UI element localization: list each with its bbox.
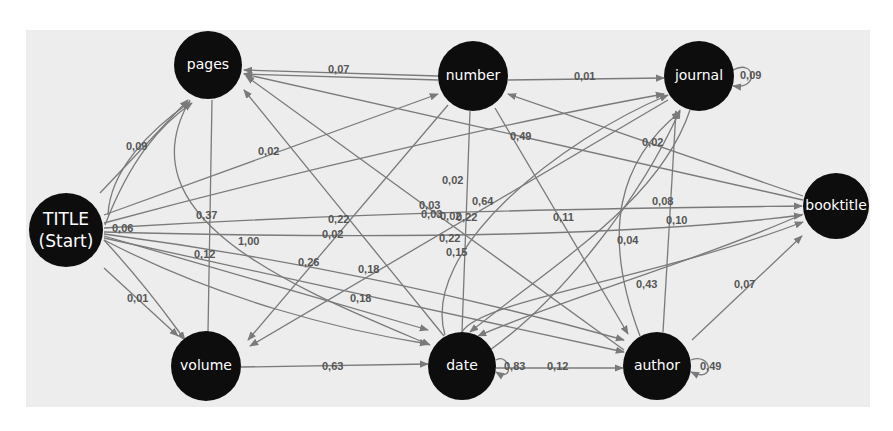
node-booktitle: booktitle (803, 173, 869, 239)
node-sublabel: (Start) (39, 231, 94, 251)
edge-weight-label: 0,06 (112, 222, 133, 234)
edge-weight-label: 0,10 (666, 214, 687, 226)
edge-weight-label: 0,02 (642, 136, 663, 148)
node-volume: volume (171, 331, 241, 401)
edge-weight-label: 0,11 (553, 211, 574, 223)
edge-weight-label: 0,09 (126, 140, 147, 152)
edge-weight-label: 0,63 (322, 360, 343, 372)
edge-weight-label: 0,15 (446, 246, 467, 258)
edge-journal-volume (250, 100, 668, 346)
edge-weight-label: 0,64 (472, 195, 494, 207)
edge-weight-label: 0,07 (328, 63, 349, 75)
node-number: number (438, 41, 508, 111)
edge-title-date (104, 236, 428, 330)
edge-weight-label: 0,01 (127, 292, 148, 304)
edge-weight-label: 0,43 (636, 278, 657, 290)
edge-weight-label: 0,04 (617, 234, 639, 246)
edge-weight-label: 0,01 (574, 70, 595, 82)
edge-weight-label: 0,49 (700, 360, 721, 372)
node-date: date (428, 332, 496, 400)
node-label: pages (187, 56, 229, 72)
node-pages: pages (174, 31, 242, 99)
transition-graph: 0,090,020,070,010,090,490,020,020,640,08… (0, 0, 893, 431)
edge-weight-label: 0,37 (196, 209, 217, 221)
node-author: author (623, 332, 691, 400)
edge-weight-label: 0,02 (442, 174, 463, 186)
edge-weight-label: 0,22 (439, 232, 460, 244)
edge-title-volume-2 (104, 240, 185, 340)
edge-weight-label: 0,49 (510, 130, 531, 142)
edge-weight-label: 0,07 (734, 278, 755, 290)
edge-weight-label: 0,02 (258, 145, 279, 157)
edge-weight-label: 0,22 (456, 211, 477, 223)
edge-weight-label: 0,26 (298, 256, 319, 268)
edge-booktitle-date (478, 214, 803, 336)
edge-title-author-2 (104, 234, 624, 340)
edge-title-pages-3 (105, 103, 192, 225)
edge-weight-label: 0,18 (358, 263, 379, 275)
node-label: number (446, 67, 501, 83)
edge-weight-label: 0,83 (504, 360, 525, 372)
node-label: TITLE (42, 209, 89, 229)
edge-weight-label: 0,12 (547, 360, 568, 372)
edge-weight-label: 0,08 (652, 195, 673, 207)
node-label: booktitle (805, 197, 867, 213)
edge-weight-label: 0,22 (328, 213, 349, 225)
node-label: volume (180, 357, 232, 373)
node-title: TITLE(Start) (29, 193, 103, 267)
node-circle (29, 193, 103, 267)
node-journal: journal (664, 41, 734, 111)
edge-weight-label: 0,18 (350, 292, 371, 304)
node-label: date (446, 357, 478, 373)
edge-weight-label: 0,09 (740, 69, 761, 81)
edge-weight-label: 0,12 (194, 248, 215, 260)
node-label: journal (674, 67, 723, 83)
edge-weight-label: 0,02 (322, 228, 343, 240)
node-label: author (634, 357, 680, 373)
edge-weight-label: 1,00 (238, 235, 259, 247)
